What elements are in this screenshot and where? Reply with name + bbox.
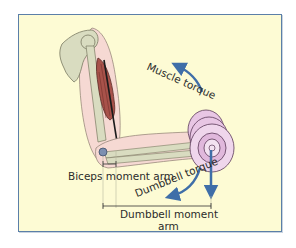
elbow-joint (99, 148, 107, 156)
dumbbell-moment-arm-label-line1: Dumbbell moment (120, 208, 218, 220)
biceps-moment-arm-label: Biceps moment arm (68, 170, 174, 182)
dumbbell-moment-arm-label-line2: arm (158, 220, 179, 232)
